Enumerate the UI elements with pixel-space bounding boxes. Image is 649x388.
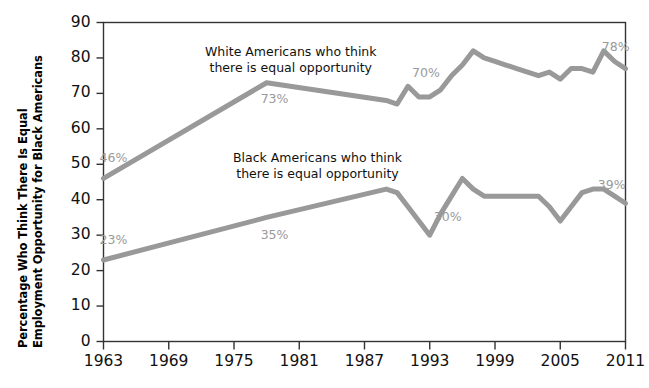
x-axis-tick-label: 2011 (596, 354, 649, 370)
y-axis-tick-label: 90 (55, 15, 91, 31)
series-annotation-black: Black Americans who think there is equal… (233, 150, 402, 181)
y-axis-tick-label: 10 (55, 298, 91, 314)
x-axis-tick-label: 1963 (74, 354, 134, 370)
y-axis-tick-label: 60 (55, 121, 91, 137)
x-axis-tick-label: 1987 (335, 354, 395, 370)
x-axis-tick-label: 1969 (139, 354, 199, 370)
data-point-label: 70% (412, 67, 440, 80)
y-axis-tick-label: 50 (55, 156, 91, 172)
data-point-label: 30% (434, 211, 462, 224)
data-point-label: 35% (261, 229, 289, 242)
x-axis-tick-label: 1993 (400, 354, 460, 370)
x-axis-tick-label: 2005 (530, 354, 590, 370)
series-annotation-black-line-1: Black Americans who think (233, 150, 402, 166)
data-point-label: 46% (100, 152, 128, 165)
y-axis-tick-label: 20 (55, 263, 91, 279)
series-annotation-white-line-1: White Americans who think (205, 44, 377, 60)
x-axis-tick-label: 1975 (204, 354, 264, 370)
series-annotation-white-line-2: there is equal opportunity (205, 60, 377, 76)
y-axis-tick-label: 80 (55, 50, 91, 66)
y-axis-tick-label: 40 (55, 192, 91, 208)
y-axis-tick-label: 30 (55, 227, 91, 243)
y-axis-tick-label: 0 (55, 334, 91, 350)
data-point-label: 39% (598, 179, 626, 192)
data-point-label: 78% (602, 41, 630, 54)
series-annotation-white: White Americans who think there is equal… (205, 44, 377, 75)
data-point-label: 73% (261, 93, 289, 106)
x-axis-tick-label: 1999 (465, 354, 525, 370)
y-axis-tick-label: 70 (55, 85, 91, 101)
series-line-black (104, 178, 626, 260)
x-axis-tick-label: 1981 (269, 354, 329, 370)
series-annotation-black-line-2: there is equal opportunity (233, 166, 402, 182)
data-point-label: 23% (100, 234, 128, 247)
